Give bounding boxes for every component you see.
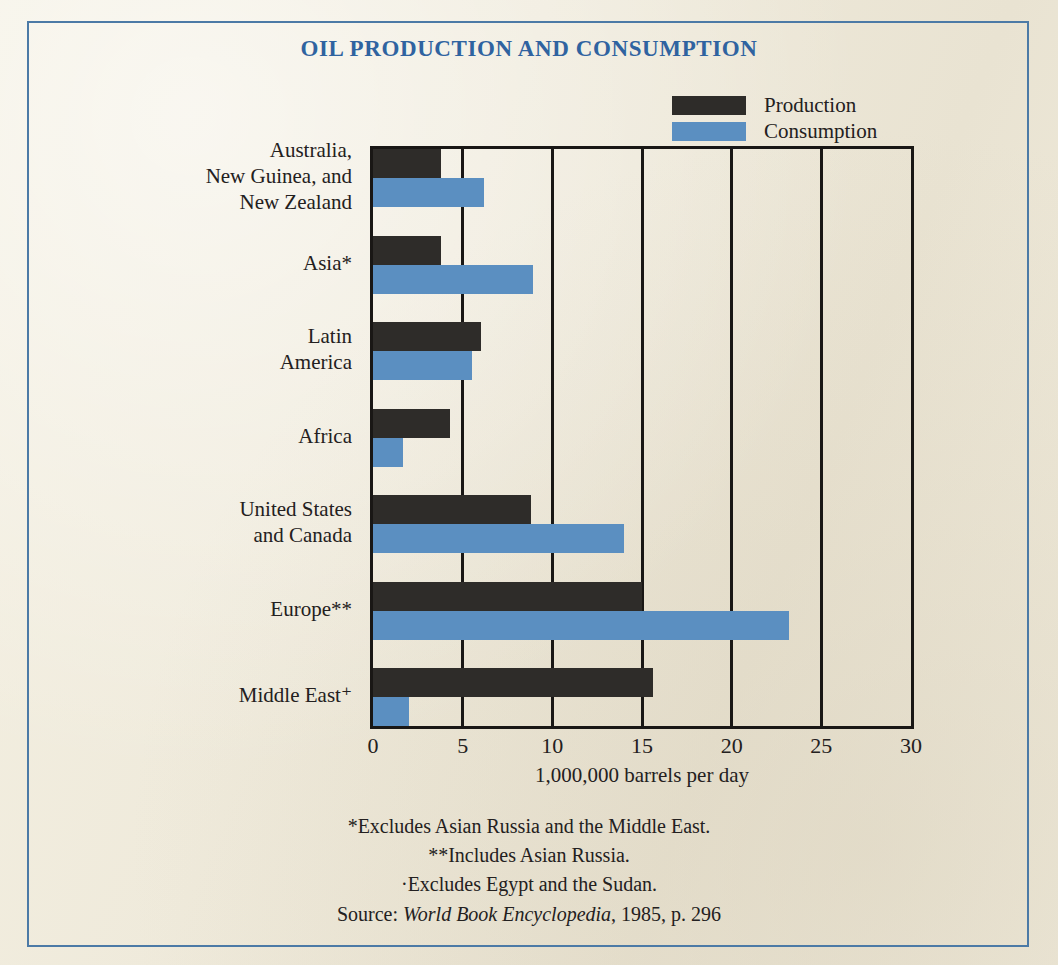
- category-label-line: Europe**: [90, 596, 352, 622]
- category-label-line: United States: [90, 496, 352, 522]
- bar-series-container: [373, 149, 911, 726]
- x-tick-15: 15: [631, 733, 653, 759]
- bar-production: [373, 409, 450, 438]
- plot-inner: [373, 149, 911, 726]
- category-label-line: New Zealand: [90, 189, 352, 215]
- bar-group: [373, 668, 911, 726]
- x-axis-title: 1,000,000 barrels per day: [370, 763, 914, 788]
- footnotes-block: *Excludes Asian Russia and the Middle Ea…: [0, 812, 1058, 899]
- bar-group: [373, 495, 911, 553]
- bar-consumption: [373, 351, 472, 380]
- category-axis-labels: Australia,New Guinea, andNew ZealandAsia…: [90, 146, 352, 729]
- bar-production: [373, 668, 653, 697]
- bar-group: [373, 322, 911, 380]
- category-label-line: Middle East⁺: [90, 682, 352, 708]
- bar-production: [373, 582, 642, 611]
- category-label-line: New Guinea, and: [90, 163, 352, 189]
- bar-consumption: [373, 178, 484, 207]
- legend-item-consumption: Consumption: [672, 118, 972, 144]
- x-axis-tick-labels: 051015202530: [370, 733, 914, 763]
- x-tick-5: 5: [457, 733, 468, 759]
- source-prefix: Source:: [337, 903, 403, 925]
- footnote-3: ·Excludes Egypt and the Sudan.: [0, 870, 1058, 899]
- legend-label-production: Production: [764, 93, 856, 118]
- x-tick-25: 25: [810, 733, 832, 759]
- x-tick-10: 10: [541, 733, 563, 759]
- x-tick-0: 0: [368, 733, 379, 759]
- chart-page: OIL PRODUCTION AND CONSUMPTION Productio…: [0, 0, 1058, 965]
- source-suffix: , 1985, p. 296: [611, 903, 721, 925]
- category-label-line: Africa: [90, 423, 352, 449]
- legend-label-consumption: Consumption: [764, 119, 877, 144]
- bar-consumption: [373, 438, 403, 467]
- category-label: Africa: [90, 423, 352, 449]
- x-tick-20: 20: [721, 733, 743, 759]
- footnote-2: **Includes Asian Russia.: [0, 841, 1058, 870]
- category-label: LatinAmerica: [90, 323, 352, 375]
- bar-production: [373, 149, 441, 178]
- bar-consumption: [373, 697, 409, 726]
- bar-group: [373, 236, 911, 294]
- bar-production: [373, 236, 441, 265]
- footnote-1: *Excludes Asian Russia and the Middle Ea…: [0, 812, 1058, 841]
- bar-group: [373, 409, 911, 467]
- category-label: Australia,New Guinea, andNew Zealand: [90, 137, 352, 215]
- bar-consumption: [373, 611, 789, 640]
- chart-legend: Production Consumption: [672, 92, 972, 144]
- category-label-line: Australia,: [90, 137, 352, 163]
- category-label-line: Asia*: [90, 250, 352, 276]
- bar-group: [373, 582, 911, 640]
- source-citation: Source: World Book Encyclopedia, 1985, p…: [0, 903, 1058, 926]
- bar-production: [373, 322, 481, 351]
- bar-consumption: [373, 265, 533, 294]
- legend-item-production: Production: [672, 92, 972, 118]
- page-title: OIL PRODUCTION AND CONSUMPTION: [0, 36, 1058, 62]
- bar-group: [373, 149, 911, 207]
- category-label-line: Latin: [90, 323, 352, 349]
- category-label-line: America: [90, 349, 352, 375]
- category-label: Middle East⁺: [90, 682, 352, 708]
- category-label: Asia*: [90, 250, 352, 276]
- legend-swatch-production-icon: [672, 96, 746, 115]
- category-label: United Statesand Canada: [90, 496, 352, 548]
- bar-consumption: [373, 524, 624, 553]
- bar-production: [373, 495, 531, 524]
- category-label-line: and Canada: [90, 522, 352, 548]
- category-label: Europe**: [90, 596, 352, 622]
- x-tick-30: 30: [900, 733, 922, 759]
- legend-swatch-consumption-icon: [672, 122, 746, 141]
- source-title: World Book Encyclopedia: [403, 903, 611, 925]
- plot-area: [370, 146, 914, 729]
